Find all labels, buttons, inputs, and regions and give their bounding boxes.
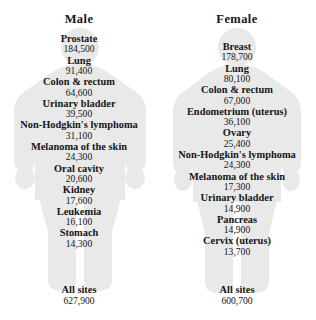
cancer-count-value: 178,700 xyxy=(154,52,316,62)
cancer-count-value: 36,100 xyxy=(154,117,316,127)
cancer-count-value: 14,300 xyxy=(0,239,162,249)
list-item: Lung 91,400 xyxy=(0,55,162,77)
cancer-count-value: 91,400 xyxy=(0,66,162,76)
total-count-value: 600,700 xyxy=(154,296,316,306)
cancer-count-value: 39,500 xyxy=(0,109,162,119)
cancer-count-value: 64,600 xyxy=(0,88,162,98)
list-item: Breast 178,700 xyxy=(154,41,316,63)
cancer-count-value: 16,100 xyxy=(0,217,162,227)
female-entry-list: Breast 178,700 Lung 80,100 Colon & rectu… xyxy=(154,41,316,257)
cancer-count-value: 13,700 xyxy=(154,247,316,257)
total-count-value: 627,900 xyxy=(0,296,162,306)
cancer-count-value: 24,300 xyxy=(154,160,316,170)
list-item: Non-Hodgkin's lymphoma 24,300 xyxy=(154,149,316,171)
female-column: Female Breast 178,700 Lung 80,100 Colon … xyxy=(158,0,316,320)
male-column: Male Prostate 184,500 Lung 91,400 Colon … xyxy=(0,0,158,320)
list-item: Colon & rectum 64,600 xyxy=(0,76,162,98)
male-entry-list: Prostate 184,500 Lung 91,400 Colon & rec… xyxy=(0,33,162,249)
list-item: Stomach 14,300 xyxy=(0,227,162,249)
cancer-count-value: 25,400 xyxy=(154,139,316,149)
cancer-count-value: 17,300 xyxy=(154,182,316,192)
cancer-count-value: 184,500 xyxy=(0,44,162,54)
list-item: Urinary bladder 39,500 xyxy=(0,98,162,120)
cancer-site-label: Colon & rectum xyxy=(154,84,316,95)
list-item: Oral cavity 20,600 xyxy=(0,163,162,185)
cancer-count-value: 67,000 xyxy=(154,96,316,106)
cancer-count-value: 31,100 xyxy=(0,131,162,141)
list-item: Cervix (uterus) 13,700 xyxy=(154,235,316,257)
list-item: Melanoma of the skin 24,300 xyxy=(0,141,162,163)
cancer-count-value: 80,100 xyxy=(154,74,316,84)
male-column-title: Male xyxy=(0,12,158,27)
cancer-count-value: 20,600 xyxy=(0,174,162,184)
list-item: Non-Hodgkin's lymphoma 31,100 xyxy=(0,119,162,141)
cancer-incidence-infographic: Male Prostate 184,500 Lung 91,400 Colon … xyxy=(0,0,316,320)
male-total-row: All sites 627,900 xyxy=(0,284,162,306)
cancer-site-label: Kidney xyxy=(0,184,162,195)
list-item: Colon & rectum 67,000 xyxy=(154,84,316,106)
cancer-count-value: 14,900 xyxy=(154,204,316,214)
list-item: Lung 80,100 xyxy=(154,63,316,85)
list-item: Melanoma of the skin 17,300 xyxy=(154,171,316,193)
cancer-site-label: Colon & rectum xyxy=(0,76,162,87)
cancer-count-value: 24,300 xyxy=(0,152,162,162)
list-item: Endometrium (uterus) 36,100 xyxy=(154,106,316,128)
list-item: Prostate 184,500 xyxy=(0,33,162,55)
cancer-count-value: 17,600 xyxy=(0,196,162,206)
list-item: Leukemia 16,100 xyxy=(0,206,162,228)
female-column-title: Female xyxy=(158,12,316,27)
list-item: Ovary 25,400 xyxy=(154,127,316,149)
list-item: Pancreas 14,900 xyxy=(154,214,316,236)
total-label: All sites xyxy=(0,284,162,296)
list-item: Urinary bladder 14,900 xyxy=(154,192,316,214)
cancer-count-value: 14,900 xyxy=(154,225,316,235)
total-label: All sites xyxy=(154,284,316,296)
cancer-site-label: Urinary bladder xyxy=(154,192,316,203)
female-total-row: All sites 600,700 xyxy=(154,284,316,306)
list-item: Kidney 17,600 xyxy=(0,184,162,206)
